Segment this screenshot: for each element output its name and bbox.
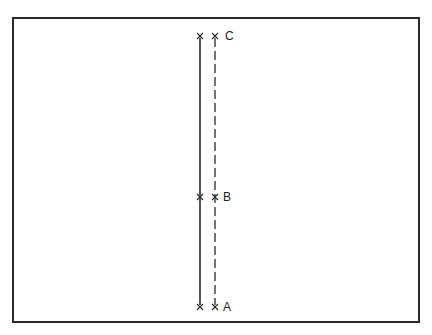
diagram-canvas [0, 0, 432, 335]
point-label-a: A [223, 301, 231, 313]
point-label-c: C [225, 30, 234, 42]
point-label-b: B [223, 191, 231, 203]
